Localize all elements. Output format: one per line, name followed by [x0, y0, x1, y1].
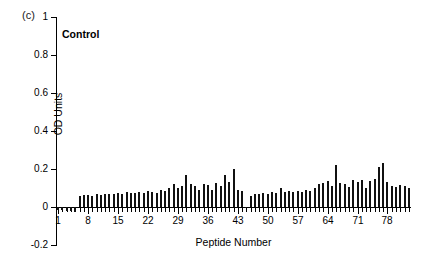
bar — [156, 193, 158, 207]
bar — [228, 182, 230, 207]
x-tick-mark-minor — [174, 208, 175, 212]
bar — [185, 175, 187, 207]
x-tick-mark-minor — [379, 208, 380, 212]
bar — [382, 163, 384, 207]
x-tick-mark-major — [208, 208, 209, 214]
bar — [220, 186, 222, 207]
bar — [262, 193, 264, 207]
x-tick-mark-minor — [169, 208, 170, 212]
y-tick-mark — [51, 93, 56, 94]
x-tick-mark-minor — [315, 208, 316, 212]
x-tick-mark-minor — [62, 208, 63, 212]
x-tick-mark-minor — [310, 208, 311, 212]
bar — [391, 186, 393, 207]
bar — [339, 183, 341, 207]
x-tick-mark-minor — [80, 208, 81, 212]
bar — [87, 195, 89, 207]
bar — [357, 182, 359, 207]
bar — [258, 194, 260, 207]
x-tick-mark-minor — [362, 208, 363, 212]
bar — [143, 193, 145, 207]
bar — [104, 194, 106, 207]
bar — [121, 194, 123, 207]
bar — [254, 194, 256, 207]
bar — [164, 191, 166, 207]
bar — [177, 188, 179, 207]
x-tick-mark-minor — [204, 208, 205, 212]
x-tick-mark-minor — [259, 208, 260, 212]
bar — [117, 193, 119, 207]
figure-panel-c: (c) Control OD Units Peptide Number 10.8… — [0, 0, 444, 264]
x-tick-mark-minor — [212, 208, 213, 212]
y-tick-mark — [51, 55, 56, 56]
bar — [335, 165, 337, 207]
x-tick-mark-major — [328, 208, 329, 214]
bar — [203, 184, 205, 207]
bar — [318, 184, 320, 207]
bar — [91, 196, 93, 207]
bar — [108, 194, 110, 207]
x-tick-mark-minor — [366, 208, 367, 212]
x-tick-mark-minor — [285, 208, 286, 212]
x-tick-mark-minor — [409, 208, 410, 212]
x-tick-mark-minor — [229, 208, 230, 212]
x-tick-mark-minor — [319, 208, 320, 212]
bar — [374, 179, 376, 207]
bar — [404, 186, 406, 207]
x-tick-mark-minor — [293, 208, 294, 212]
y-tick-mark — [51, 245, 56, 246]
bar — [365, 188, 367, 207]
bar — [408, 188, 410, 207]
x-tick-mark-major — [298, 208, 299, 214]
bar — [275, 193, 277, 207]
x-tick-mark-minor — [323, 208, 324, 212]
y-tick-label: 1 — [0, 12, 48, 22]
x-tick-mark-minor — [349, 208, 350, 212]
x-tick-mark-minor — [199, 208, 200, 212]
bar — [386, 182, 388, 207]
x-tick-mark-minor — [336, 208, 337, 212]
x-tick-mark-minor — [246, 208, 247, 212]
bar — [181, 186, 183, 207]
x-tick-mark-minor — [135, 208, 136, 212]
bar — [399, 185, 401, 207]
x-tick-mark-major — [178, 208, 179, 214]
y-tick-label: 0.8 — [0, 50, 48, 60]
x-tick-label: 78 — [367, 215, 407, 226]
x-tick-mark-minor — [216, 208, 217, 212]
bar — [314, 188, 316, 207]
bar — [168, 188, 170, 207]
bar — [224, 175, 226, 207]
x-tick-mark-minor — [345, 208, 346, 212]
x-tick-mark-minor — [353, 208, 354, 212]
x-tick-mark-minor — [306, 208, 307, 212]
bar — [83, 195, 85, 207]
x-tick-mark-minor — [195, 208, 196, 212]
x-tick-mark-major — [268, 208, 269, 214]
bar — [297, 191, 299, 207]
x-tick-mark-minor — [383, 208, 384, 212]
y-tick-mark — [51, 131, 56, 132]
x-tick-mark-minor — [152, 208, 153, 212]
x-tick-mark-minor — [105, 208, 106, 212]
bar — [126, 192, 128, 207]
bar — [113, 194, 115, 207]
x-tick-mark-minor — [375, 208, 376, 212]
bar — [348, 187, 350, 207]
y-tick-label: 0.4 — [0, 126, 48, 136]
bar — [211, 190, 213, 207]
bar — [369, 181, 371, 207]
y-tick-label: -0.2 — [0, 240, 48, 250]
bar — [327, 181, 329, 207]
x-tick-mark-minor — [165, 208, 166, 212]
bar — [250, 196, 252, 207]
bar — [305, 190, 307, 207]
bar — [288, 191, 290, 207]
x-tick-mark-minor — [332, 208, 333, 212]
x-tick-mark-minor — [114, 208, 115, 212]
x-tick-mark-minor — [191, 208, 192, 212]
bar — [207, 185, 209, 207]
bar — [100, 195, 102, 207]
x-tick-mark-major — [387, 208, 388, 214]
bar — [215, 183, 217, 207]
